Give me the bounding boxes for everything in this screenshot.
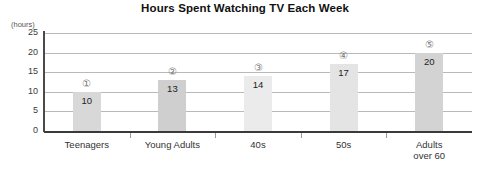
chart-title: Hours Spent Watching TV Each Week: [0, 2, 490, 14]
bar-marker-label: ④: [330, 50, 358, 61]
x-axis-line: [44, 131, 472, 133]
bar[interactable]: 20: [415, 53, 443, 131]
y-axis-tick-label: 25: [6, 27, 38, 37]
gridline: [44, 53, 472, 54]
bar[interactable]: 10: [73, 92, 101, 131]
bar-marker-label: ③: [244, 62, 272, 73]
y-axis-tick-label: 10: [6, 86, 38, 96]
x-axis-category-label-line: Adults: [374, 139, 484, 150]
bar-value-label: 17: [330, 67, 358, 78]
y-axis-tick-label: 15: [6, 66, 38, 76]
bar-marker-label: ⑤: [415, 39, 443, 50]
x-axis-tick: [386, 133, 387, 138]
y-axis-tick-label: 20: [6, 47, 38, 57]
x-axis-category-label-line: over 60: [374, 150, 484, 161]
x-axis-tick: [215, 133, 216, 138]
bar-value-label: 13: [158, 83, 186, 94]
bar-chart: Hours Spent Watching TV Each Week (hours…: [0, 0, 490, 169]
y-axis-tick-label: 5: [6, 105, 38, 115]
bar-marker-label: ②: [158, 66, 186, 77]
bar-marker-label: ①: [73, 78, 101, 89]
bar-value-label: 10: [73, 95, 101, 106]
y-axis-line: [43, 31, 45, 132]
bar[interactable]: 17: [330, 64, 358, 131]
bar-value-label: 20: [415, 56, 443, 67]
bar[interactable]: 14: [244, 76, 272, 131]
x-axis-tick: [130, 133, 131, 138]
bar-value-label: 14: [244, 79, 272, 90]
plot-area: 1013141720: [44, 33, 472, 131]
x-axis-tick: [301, 133, 302, 138]
y-axis-tick-label: 0: [6, 125, 38, 135]
gridline: [44, 33, 472, 34]
x-axis-category-label: Adultsover 60: [374, 139, 484, 161]
bar[interactable]: 13: [158, 80, 186, 131]
